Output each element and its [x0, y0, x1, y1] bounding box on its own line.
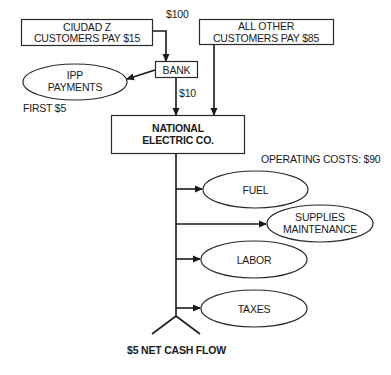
ipp-payments-ellipse: IPP PAYMENTS [23, 64, 127, 100]
ciudad-z-label-line2: CUSTOMERS PAY $15 [34, 32, 140, 44]
operating-costs-label: OPERATING COSTS: $90 [261, 153, 381, 165]
fuel-ellipse: FUEL [203, 171, 308, 208]
all-other-label-line2: CUSTOMERS PAY $85 [213, 32, 319, 44]
taxes-ellipse: TAXES [201, 290, 307, 327]
national-electric-box: NATIONAL ELECTRIC CO. [112, 116, 245, 154]
labor-label: LABOR [237, 254, 272, 266]
national-label-line1: NATIONAL [152, 122, 205, 134]
supplies-label-line1: SUPPLIES [295, 211, 345, 223]
labor-ellipse: LABOR [201, 241, 307, 278]
supplies-maintenance-ellipse: SUPPLIES MAINTENANCE [267, 205, 373, 242]
bank-to-national-amount: $10 [179, 87, 196, 99]
fuel-label: FUEL [242, 184, 268, 196]
supplies-label-line2: MAINTENANCE [283, 223, 357, 235]
bank-to-ipp-arrow [127, 70, 155, 79]
ciudad-to-bank-amount: $100 [166, 8, 189, 20]
net-cash-flow-label: $5 NET CASH FLOW [127, 344, 226, 356]
ciudad-z-customers-box: CIUDAD Z CUSTOMERS PAY $15 [22, 20, 153, 46]
ciudad-to-bank-arrow [153, 31, 167, 61]
ipp-label-line2: PAYMENTS [48, 81, 103, 93]
ciudad-z-label-line1: CIUDAD Z [63, 21, 112, 33]
bank-box: BANK [156, 62, 198, 78]
bank-label: BANK [163, 64, 191, 76]
ipp-first-amount: FIRST $5 [23, 102, 66, 114]
taxes-label: TAXES [238, 303, 271, 315]
all-other-label-line1: ALL OTHER [238, 20, 295, 32]
ipp-label-line1: IPP [67, 69, 84, 81]
cash-flow-diagram: CIUDAD Z CUSTOMERS PAY $15 ALL OTHER CUS… [0, 0, 391, 375]
all-other-customers-box: ALL OTHER CUSTOMERS PAY $85 [200, 20, 334, 45]
net-cash-flow-fork [152, 316, 200, 334]
national-label-line2: ELECTRIC CO. [142, 134, 214, 146]
